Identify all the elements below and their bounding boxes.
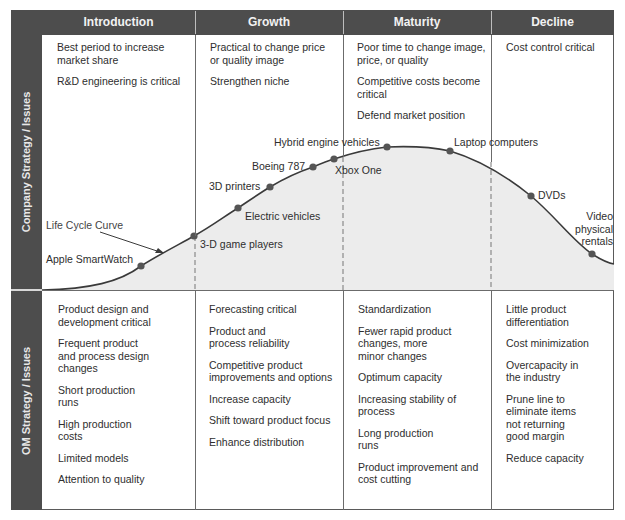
cell-item: Prune line to eliminate items not return… (506, 393, 591, 443)
cell-item: Little product differentiation (506, 303, 606, 328)
cell-item: Attention to quality (58, 473, 190, 486)
column-divider (195, 290, 196, 510)
column-divider (195, 35, 196, 236)
company-growth-cell: Practical to change price or quality ima… (210, 41, 335, 97)
om-maturity-cell: Standardization Fewer rapid product chan… (358, 303, 488, 495)
om-decline-cell: Little product differentiation Cost mini… (506, 303, 606, 473)
point-label-3d-printers: 3D printers (209, 180, 260, 192)
cell-item: R&D engineering is critical (57, 75, 187, 88)
column-divider (343, 290, 344, 510)
point-label-hybrid-engine-vehicles: Hybrid engine vehicles (274, 136, 380, 148)
cell-item: Limited models (58, 452, 190, 465)
cell-item: Competitive costs become critical (357, 75, 487, 100)
point-label-laptop-computers: Laptop computers (454, 136, 538, 148)
point-label-video-physical-rentals: Video physical rentals (570, 210, 613, 248)
cell-item: Standardization (358, 303, 488, 316)
point-label-dvds: DVDs (538, 189, 565, 201)
cell-item: Practical to change price or quality ima… (210, 41, 335, 66)
cell-item: Optimum capacity (358, 371, 488, 384)
cell-item: Product and process reliability (209, 325, 299, 350)
cell-item: Forecasting critical (209, 303, 339, 316)
cell-item: Increasing stability of process (358, 393, 458, 418)
point-label-3d-game-players: 3-D game players (200, 238, 283, 250)
company-maturity-cell: Poor time to change image, price, or qua… (357, 41, 487, 131)
point-label-apple-smartwatch: Apple SmartWatch (46, 253, 133, 265)
cell-item: Overcapacity in the industry (506, 359, 591, 384)
cell-item: Product improvement and cost cutting (358, 461, 488, 486)
cell-item: Enhance distribution (209, 436, 339, 449)
cell-item: Strengthen niche (210, 75, 335, 88)
cell-item: Frequent product and process design chan… (58, 337, 153, 375)
point-label-boeing-787: Boeing 787 (252, 160, 305, 172)
row-divider (42, 290, 614, 291)
cell-item: Shift toward product focus (209, 414, 339, 427)
cell-item: Poor time to change image, price, or qua… (357, 41, 487, 66)
company-decline-cell: Cost control critical (506, 41, 596, 63)
cell-item: Product design and development critical (58, 303, 190, 328)
cell-item: Defend market position (357, 109, 487, 122)
cell-item: Cost control critical (506, 41, 596, 54)
point-label-xbox-one: Xbox One (335, 164, 382, 176)
cell-item: Short production runs (58, 384, 153, 409)
cell-item: Fewer rapid product changes, more minor … (358, 325, 453, 363)
cell-item: Cost minimization (506, 337, 606, 350)
cell-item: Reduce capacity (506, 452, 606, 465)
life-cycle-curve-label: Life Cycle Curve (46, 219, 123, 231)
cell-item: High production costs (58, 418, 153, 443)
cell-item: Long production runs (358, 427, 448, 452)
company-introduction-cell: Best period to increase market share R&D… (57, 41, 187, 97)
point-label-electric-vehicles: Electric vehicles (245, 210, 320, 222)
om-growth-cell: Forecasting critical Product and process… (209, 303, 339, 457)
cell-item: Competitive product improvements and opt… (209, 359, 339, 384)
cell-item: Best period to increase market share (57, 41, 187, 66)
column-divider (491, 290, 492, 510)
om-introduction-cell: Product design and development critical … (58, 303, 190, 495)
cell-item: Increase capacity (209, 393, 339, 406)
curve-area (42, 147, 614, 290)
